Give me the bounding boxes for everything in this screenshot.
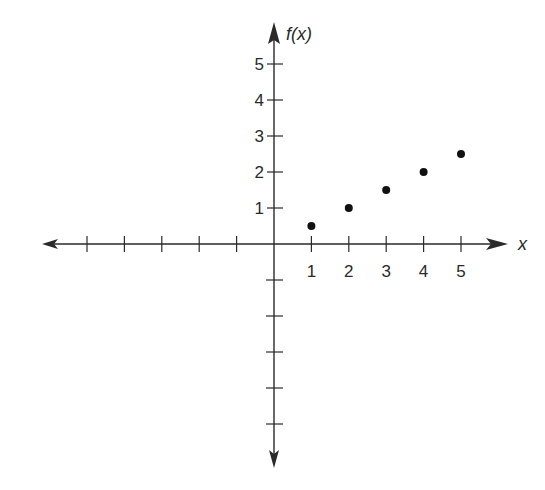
data-points [307,150,465,230]
y-tick-label: 3 [255,127,264,146]
data-point [345,204,353,212]
x-tick-label: 3 [381,262,390,281]
x-tick-label: 2 [344,262,353,281]
data-point [457,150,465,158]
y-tick-label: 1 [255,199,264,218]
x-axis-label: x [517,234,528,254]
data-point [307,222,315,230]
y-tick-label: 5 [255,55,264,74]
tick-labels: 1234512345 [255,55,466,281]
coordinate-plane: 1234512345 x f(x) [0,0,545,490]
y-tick-label: 2 [255,163,264,182]
data-point [420,168,428,176]
y-axis-label: f(x) [286,24,312,44]
x-tick-label: 4 [419,262,428,281]
x-tick-label: 1 [307,262,316,281]
axes [42,22,508,468]
y-tick-label: 4 [255,91,264,110]
x-tick-label: 5 [456,262,465,281]
data-point [382,186,390,194]
